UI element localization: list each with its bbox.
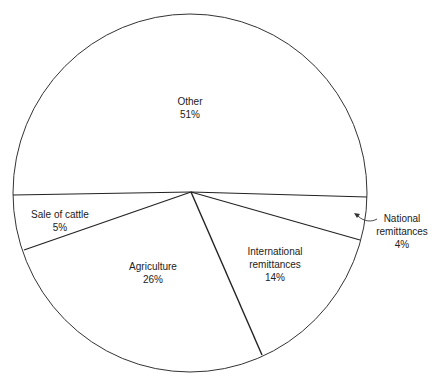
label-cattle-name: Sale of cattle [20, 208, 100, 221]
label-national-name-2: remittances [370, 225, 434, 238]
pie-outline [13, 14, 367, 372]
label-other: Other 51% [160, 95, 220, 121]
label-international-name-1: International [235, 245, 315, 258]
label-national-name-1: National [370, 212, 434, 225]
label-other-value: 51% [160, 108, 220, 121]
label-agriculture-name: Agriculture [118, 260, 188, 273]
label-international-value: 14% [235, 271, 315, 284]
label-cattle-value: 5% [20, 221, 100, 234]
label-international-name-2: remittances [235, 258, 315, 271]
label-agriculture-value: 26% [118, 273, 188, 286]
label-national: National remittances 4% [370, 212, 434, 251]
label-national-value: 4% [370, 238, 434, 251]
label-international: International remittances 14% [235, 245, 315, 284]
label-other-name: Other [160, 95, 220, 108]
label-cattle: Sale of cattle 5% [20, 208, 100, 234]
pie-chart [0, 0, 440, 383]
label-agriculture: Agriculture 26% [118, 260, 188, 286]
